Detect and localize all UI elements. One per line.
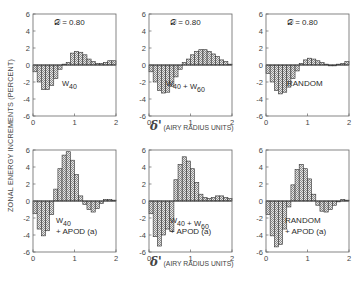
y-tick-label: 4 (142, 163, 146, 172)
bar (79, 52, 83, 65)
y-tick-label: 0 (26, 197, 30, 206)
y-tick-label: -2 (139, 78, 146, 87)
y-tick-label: -2 (23, 214, 30, 223)
bar (33, 65, 37, 72)
bar (199, 50, 203, 65)
bar (79, 196, 83, 201)
y-tick-label: -4 (256, 95, 263, 104)
y-tick-label: 2 (26, 44, 30, 53)
y-tick-label: 2 (259, 44, 263, 53)
bar (266, 65, 270, 74)
y-tick-label: 4 (142, 27, 146, 36)
y-tick-label: -2 (256, 78, 263, 87)
bar (178, 65, 182, 69)
bar (299, 164, 303, 201)
x-axis-label-top: δ' (AIRY RADIUS UNITS) (150, 119, 234, 133)
bar (320, 201, 324, 211)
bar (50, 65, 54, 85)
bar (108, 61, 112, 65)
x-tick-label: 2 (114, 118, 118, 127)
panel-annotation: RANDOM (287, 79, 323, 88)
panel-annotation: + APOD (a) (285, 227, 326, 236)
x-tick-label: 1 (305, 254, 309, 263)
y-tick-label: -2 (256, 214, 263, 223)
y-tick-label: 2 (142, 180, 146, 189)
y-tick-label: -6 (256, 248, 263, 257)
bar (211, 54, 215, 65)
bar (62, 155, 66, 201)
bar (324, 201, 328, 212)
x-tick-label: 1 (72, 118, 76, 127)
bar (174, 65, 178, 77)
panel-title: 𝒟 = 0.80 (170, 18, 201, 27)
y-tick-label: 2 (26, 180, 30, 189)
y-tick-label: 0 (259, 197, 263, 206)
bar (303, 169, 307, 201)
bar (308, 179, 312, 201)
bar (199, 194, 203, 201)
y-tick-label: 0 (142, 61, 146, 70)
bar (37, 65, 41, 82)
delta-prime-symbol: δ' (150, 119, 162, 133)
panel-annotation: + APOD (a) (170, 227, 211, 236)
x-tick-label: 2 (347, 118, 351, 127)
bar (220, 196, 224, 201)
panel-annotation: RANDOM (285, 216, 321, 225)
y-tick-label: -6 (139, 112, 146, 121)
y-tick-label: -6 (23, 112, 30, 121)
bar (54, 65, 58, 79)
y-tick-label: 0 (26, 61, 30, 70)
panel-title: 𝒟 = 0.80 (54, 18, 85, 27)
bar (87, 201, 91, 210)
bar (70, 53, 74, 65)
bar (41, 201, 45, 236)
x-tick-label: 0 (264, 254, 268, 263)
y-tick-label: 6 (26, 146, 30, 155)
bar (33, 201, 37, 214)
panel-title: 𝒟 = 0.80 (287, 18, 318, 27)
panel-annotation: W40 + W60 (166, 79, 205, 93)
y-tick-label: -4 (139, 95, 146, 104)
bar (149, 201, 153, 214)
x-axis-units: (AIRY RADIUS UNITS) (164, 260, 234, 267)
bar (207, 51, 211, 65)
y-tick-label: 4 (259, 27, 263, 36)
y-tick-label: -6 (23, 248, 30, 257)
bar (87, 59, 91, 65)
bar (203, 198, 207, 201)
bar (83, 55, 87, 65)
y-tick-label: 6 (142, 10, 146, 19)
x-tick-label: 1 (305, 118, 309, 127)
bar (91, 62, 95, 65)
bar (191, 55, 195, 65)
bar (95, 201, 99, 209)
bar (274, 201, 278, 247)
bar (37, 201, 41, 229)
y-tick-label: 6 (259, 146, 263, 155)
chart-panel-bottom-middle: 6420-2-4-6012W40 + W60 + APOD (a) (139, 146, 234, 264)
chart-panel-bottom-right: 6420-2-4-6012RANDOM + APOD (a) (256, 146, 351, 264)
x-axis-label-bottom: δ' (AIRY RADIUS UNITS) (150, 255, 234, 269)
bar (178, 164, 182, 201)
bar (274, 65, 278, 91)
bar (41, 65, 45, 90)
bar (224, 62, 228, 65)
y-tick-label: 0 (259, 61, 263, 70)
y-tick-label: 6 (259, 10, 263, 19)
bar (161, 201, 165, 235)
panel-annotation: W40 (56, 216, 71, 227)
bar (316, 61, 320, 65)
bar (75, 51, 79, 65)
bar (308, 58, 312, 65)
bar (112, 61, 116, 65)
bar (195, 51, 199, 65)
bar (278, 65, 282, 94)
panel-annotation: W40 (62, 79, 77, 90)
bar (157, 201, 161, 246)
bar (186, 161, 190, 201)
bar (149, 65, 153, 72)
bar (45, 201, 49, 231)
bar (50, 201, 54, 215)
bar (270, 65, 274, 82)
y-tick-label: -2 (23, 78, 30, 87)
